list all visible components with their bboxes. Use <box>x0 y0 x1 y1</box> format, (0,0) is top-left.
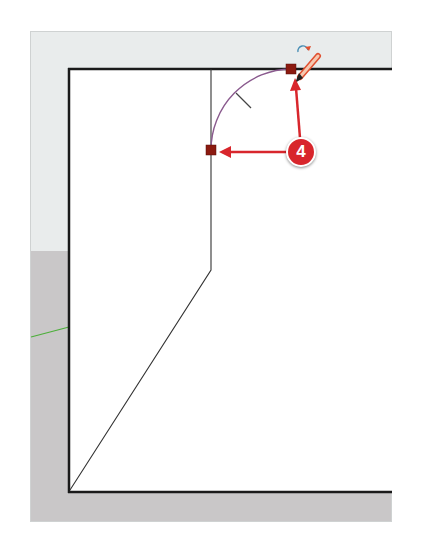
face-rectangle <box>69 69 392 492</box>
rotate-arrow-icon <box>298 46 311 52</box>
step-callout-badge: 4 <box>286 137 316 167</box>
drawing-canvas[interactable] <box>0 0 424 542</box>
endpoint-marker-start[interactable] <box>206 145 216 155</box>
green-axis-line <box>31 327 69 337</box>
endpoint-marker-end[interactable] <box>286 64 296 74</box>
